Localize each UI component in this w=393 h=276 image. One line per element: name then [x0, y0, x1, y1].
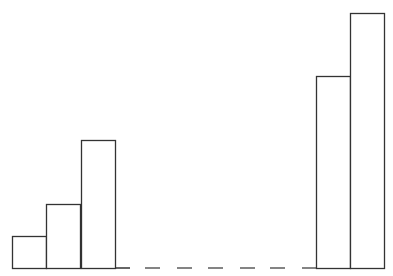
histogram-diagram [0, 0, 393, 276]
histogram-bar [47, 205, 81, 269]
histogram-bar [82, 141, 116, 269]
histogram-bar [351, 14, 385, 269]
histogram-bar [13, 237, 47, 269]
histogram-bar [317, 77, 351, 269]
